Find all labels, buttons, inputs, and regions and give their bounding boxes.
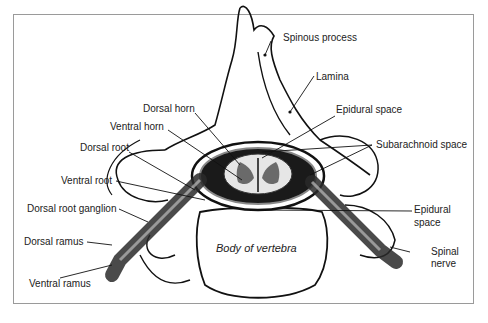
label-dorsal-root: Dorsal root <box>80 142 129 154</box>
label-epidural-space-right-1: Epidural <box>414 204 451 216</box>
label-ventral-ramus: Ventral ramus <box>29 278 91 290</box>
label-dorsal-ramus: Dorsal ramus <box>24 236 83 248</box>
label-lamina: Lamina <box>316 71 349 83</box>
label-body-of-vertebra: Body of vertebra <box>216 242 297 254</box>
label-spinous-process: Spinous process <box>283 32 357 44</box>
label-spinal-nerve-2: nerve <box>431 258 456 270</box>
label-epidural-space-top: Epidural space <box>336 104 402 116</box>
label-epidural-space-right-2: space <box>414 217 441 229</box>
vertebra-illustration <box>0 0 488 323</box>
label-dorsal-horn: Dorsal horn <box>143 103 195 115</box>
label-ventral-horn: Ventral horn <box>110 121 164 133</box>
label-subarachnoid-space: Subarachnoid space <box>376 139 467 151</box>
label-ventral-root: Ventral root <box>61 175 112 187</box>
label-dorsal-root-ganglion: Dorsal root ganglion <box>27 203 117 215</box>
label-spinal-nerve-1: Spinal <box>431 246 459 258</box>
